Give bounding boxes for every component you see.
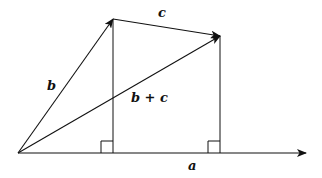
right-angle-mark-1 — [101, 141, 113, 153]
vector-b-arrow — [18, 19, 113, 153]
vector-c-arrow — [113, 19, 220, 36]
vector-diagram: b c b + c a — [0, 0, 322, 178]
vector-b-plus-c-arrow — [18, 36, 220, 153]
label-b-plus-c: b + c — [131, 90, 168, 105]
label-b: b — [47, 78, 56, 93]
right-angle-mark-2 — [208, 141, 220, 153]
label-a: a — [188, 158, 196, 173]
label-c: c — [158, 5, 166, 20]
